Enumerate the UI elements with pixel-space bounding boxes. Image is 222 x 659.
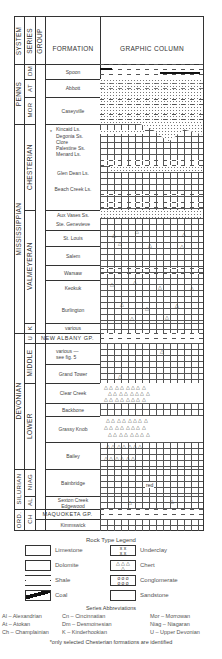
abbreviation: At – Atokan xyxy=(2,621,30,627)
legend-label: Coal xyxy=(55,592,67,598)
formation-caseyville: Caseyville xyxy=(46,97,100,124)
system-divider xyxy=(14,124,24,125)
chert-pattern-icon: △ △ △△ xyxy=(110,560,136,571)
system-devonian: DEVONIAN xyxy=(14,366,24,436)
formation-beach-creek: Beach Creek Ls. xyxy=(46,182,100,196)
shale-pattern-icon xyxy=(25,575,51,586)
chert-icon: △ xyxy=(180,244,184,249)
header-group: GROUP xyxy=(35,17,45,65)
graphic-sexton-creek xyxy=(100,496,203,509)
header-system: SYSTEM xyxy=(14,17,24,65)
chert-icon: △ △ △ △ △ △ △ △ xyxy=(106,418,148,423)
chert-icon: △ xyxy=(128,500,132,505)
series-ch: CH xyxy=(25,509,35,529)
header-formation: FORMATION xyxy=(46,45,100,52)
formation-burlington: Burlington xyxy=(46,296,100,323)
formation-menard: Menard Ls. xyxy=(46,151,100,157)
chert-icon: △ △ △ △ △ △ △ △ xyxy=(104,397,146,402)
formation-ste-genevieve: Ste. Genevieve xyxy=(46,218,100,230)
graphic-various-k xyxy=(100,323,203,333)
chert-icon: △ △ △ △ △ △ △ △ xyxy=(108,432,150,437)
legend-label: Dolomite xyxy=(55,562,79,568)
formation-keokuk: Keokuk xyxy=(46,280,100,296)
chert-icon: △ xyxy=(118,374,122,379)
legend-label: Sandstone xyxy=(140,592,169,598)
graphic-kimmswick xyxy=(100,519,203,531)
chert-icon: △ △ △ △ △ △ △ △ xyxy=(104,425,146,430)
coal-pattern-icon xyxy=(25,590,51,601)
chert-icon: △ xyxy=(165,315,169,320)
coal-bed xyxy=(160,72,200,74)
chert-icon: △ xyxy=(110,282,114,287)
legend-label: Conglomerate xyxy=(140,577,178,583)
formation-glen-dean: Glen Dean Ls. xyxy=(46,166,100,180)
formation-sexton-creek: Sexton Creek Edgewood xyxy=(46,496,100,509)
shale-layer xyxy=(100,99,203,109)
formation-bailey: Bailey xyxy=(46,442,100,469)
shale-layer xyxy=(100,83,203,89)
abbreviation: Niag – Niagaran xyxy=(150,621,190,627)
chert-icon: △ xyxy=(182,232,186,237)
shale-layer xyxy=(100,114,203,122)
abbreviation: Cn – Cincinnatian xyxy=(62,613,105,619)
system-penns: PENNS xyxy=(14,64,24,124)
chert-icon: △ xyxy=(120,302,124,307)
chert-icon: △ xyxy=(158,285,162,290)
shale-layer xyxy=(100,202,203,208)
chert-icon: △ △ △ △ △ △ △ xyxy=(106,444,142,449)
abbreviation: Al – Alexandrian xyxy=(2,613,42,619)
header-series: SERIES xyxy=(25,17,35,65)
chert-icon: △ xyxy=(148,243,152,248)
coal-bed xyxy=(100,68,112,70)
formation-various-k: various xyxy=(46,323,100,333)
chert-icon: △ xyxy=(145,306,149,311)
divider xyxy=(203,16,204,531)
graphic-middle-devonian xyxy=(100,343,203,383)
legend-label: Limestone xyxy=(55,547,83,553)
chert-icon: △ xyxy=(160,349,164,354)
series-u: U xyxy=(25,333,35,343)
limestone-pattern-icon xyxy=(25,545,51,556)
formation-grassy-knob: Grassy Knob xyxy=(46,416,100,442)
chert-icon: △ xyxy=(170,499,174,504)
system-ord: ORD. xyxy=(14,505,24,535)
abbreviations-title: Series Abbreviations xyxy=(0,605,222,611)
formation-kincaid: Kincaid Ls. xyxy=(46,125,100,132)
abbreviation: K – Kinderhookian xyxy=(62,629,107,635)
system-divider xyxy=(14,333,24,334)
footnote: *only selected Chesterian formations are… xyxy=(0,639,222,645)
formation-bainbridge: Bainbridge xyxy=(46,469,100,496)
formation-various-middle: various — see fig. 5 xyxy=(46,344,100,364)
formation-backbone: Backbone xyxy=(46,403,100,416)
abbreviation: Dm – Desmoinesian xyxy=(62,621,112,627)
formation-warsaw: Warsaw xyxy=(46,265,100,280)
sandstone-pattern-icon xyxy=(110,590,136,601)
formation-new-albany: NEW ALBANY GP. xyxy=(35,333,100,343)
chert-icon: △ xyxy=(190,286,194,291)
series-divider xyxy=(24,383,35,384)
chert-icon: △ xyxy=(118,241,122,246)
dolomite-pattern-icon xyxy=(25,560,51,571)
series-valmeyeran: VALMEYERAN xyxy=(25,221,35,311)
abbreviation: Mor – Morrowan xyxy=(150,613,190,619)
graphic-aux-vases xyxy=(100,210,203,218)
series-k: K xyxy=(25,323,35,333)
chert-icon: △ △ △ △ △ △ xyxy=(104,456,135,461)
formation-salem: Salem xyxy=(46,246,100,265)
legend-label: Underclay xyxy=(140,547,167,553)
chert-icon: △ xyxy=(130,316,134,321)
chert-icon: △ xyxy=(175,303,179,308)
legend-title: Rock Type Legend xyxy=(0,537,222,543)
formation-abbott: Abbott xyxy=(46,79,100,97)
header-graphic-column: GRAPHIC COLUMN xyxy=(100,45,204,52)
red-annotation: red xyxy=(145,482,154,488)
series-mor: MOR xyxy=(25,95,35,125)
chert-icon: △ xyxy=(135,229,139,234)
shale-layer xyxy=(100,194,203,199)
sandstone-wedge xyxy=(110,166,203,172)
series-divider xyxy=(24,210,35,211)
formation-clear-creek: Clear Creek xyxy=(46,383,100,403)
formation-kimmswick: Kimmswick xyxy=(46,519,100,530)
conglomerate-pattern-icon: o o oo o o xyxy=(110,575,136,586)
series-middle: MIDDLE xyxy=(25,343,35,383)
